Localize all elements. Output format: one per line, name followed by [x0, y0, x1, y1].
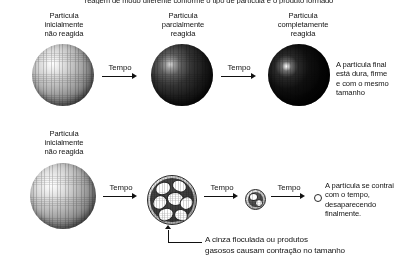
arrow-label-tempo: Tempo [199, 183, 245, 192]
arrow-head-icon [300, 193, 305, 199]
arrow-label-tempo: Tempo [215, 63, 263, 72]
callout-leader-horizontal [168, 242, 202, 243]
callout-ash-contraction: A cinza floculada ou produtos gasosos ca… [205, 235, 417, 256]
texture-overlay [148, 176, 196, 224]
figure-canvas: reagem de modo diferente conforme o tipo… [0, 0, 418, 263]
arrow-tempo-1: Tempo [96, 63, 144, 83]
sphere-completely-reacted [268, 44, 330, 106]
texture-overlay [268, 44, 330, 106]
arrow-head-icon [132, 193, 137, 199]
arrow-tempo-5: Tempo [266, 183, 312, 203]
sphere-small [245, 189, 266, 210]
note-final-particle: A partícula final está dura, firme e com… [336, 60, 418, 98]
arrow-shaft [103, 196, 133, 197]
arrow-shaft [221, 76, 252, 77]
arrow-head-icon [251, 73, 256, 79]
sphere-unreacted-2 [30, 163, 96, 229]
arrow-shaft [271, 196, 301, 197]
note-shrinking-particle: A partícula se contrai com o tempo, desa… [325, 181, 418, 219]
stage-label-unreacted-2: Partícula inicialmente não reagida [12, 129, 116, 157]
arrow-label-tempo: Tempo [266, 183, 312, 192]
stage-label-complete: Partícula completamente reagida [248, 11, 358, 39]
arrow-shaft [204, 196, 234, 197]
callout-arrow-head-icon [165, 225, 171, 229]
arrow-tempo-3: Tempo [98, 183, 144, 203]
texture-overlay [30, 163, 96, 229]
texture-overlay [246, 190, 265, 209]
top-cut-caption: reagem de modo diferente conforme o tipo… [0, 0, 418, 4]
sphere-ash-flaking [147, 175, 197, 225]
stage-label-partial: Partícula parcialmente reagida [131, 11, 235, 39]
arrow-tempo-2: Tempo [215, 63, 263, 83]
stage-label-unreacted: Partícula inicialmente não reagida [12, 11, 116, 39]
arrow-label-tempo: Tempo [98, 183, 144, 192]
arrow-head-icon [233, 193, 238, 199]
sphere-vanishing-dot [314, 194, 322, 202]
sphere-unreacted [32, 44, 94, 106]
arrow-head-icon [132, 73, 137, 79]
arrow-tempo-4: Tempo [199, 183, 245, 203]
arrow-shaft [102, 76, 133, 77]
arrow-label-tempo: Tempo [96, 63, 144, 72]
callout-leader-vertical [168, 230, 169, 243]
texture-overlay [32, 44, 94, 106]
sphere-partially-reacted [151, 44, 213, 106]
texture-overlay [151, 44, 213, 106]
